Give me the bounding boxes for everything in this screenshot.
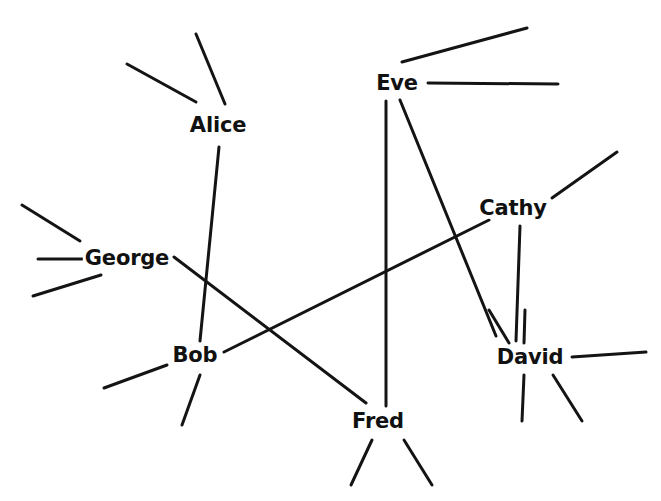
graph-edge-alice-bob: [200, 147, 219, 341]
graph-stub-edge-david-stub-lower: [522, 375, 524, 421]
graph-stub-edge-fred-stub-lower-left: [351, 440, 372, 485]
graph-stub-edge-fred-stub-lower-right: [404, 440, 432, 485]
graph-stub-edge-eve-stub-right: [428, 83, 558, 84]
graph-stub-edge-david-stub-upper: [524, 310, 525, 343]
graph-node-label-bob[interactable]: Bob: [171, 345, 220, 366]
graph-edge-cathy-david: [516, 226, 520, 341]
graph-edge-george-fred: [174, 257, 366, 403]
graph-node-label-cathy[interactable]: Cathy: [477, 198, 548, 219]
graph-node-label-eve[interactable]: Eve: [374, 73, 420, 94]
graph-stub-edge-george-stub-lower-left: [33, 275, 101, 296]
graph-stub-edge-bob-stub-lower-left: [104, 365, 167, 388]
graph-stub-edge-george-stub-upper-left: [22, 205, 80, 241]
graph-node-label-david[interactable]: David: [495, 347, 566, 368]
network-graph-canvas: AliceEveCathyGeorgeBobDavidFred: [0, 0, 661, 501]
graph-node-label-fred[interactable]: Fred: [350, 411, 406, 432]
graph-stub-edge-alice-stub-upper-right: [196, 34, 225, 104]
graph-edge-bob-cathy: [224, 220, 489, 352]
graph-node-label-alice[interactable]: Alice: [188, 115, 248, 136]
graph-node-label-george[interactable]: George: [83, 248, 171, 269]
graph-stub-edge-eve-stub-upper-right: [402, 28, 527, 62]
graph-stub-edge-bob-stub-lower: [182, 375, 200, 425]
graph-stub-edge-cathy-stub-upper-right: [552, 152, 617, 198]
graph-stub-edge-david-stub-lower-right: [553, 375, 582, 421]
graph-stub-edge-alice-stub-upper-left: [127, 64, 196, 102]
graph-stub-edge-david-stub-right: [572, 352, 646, 357]
